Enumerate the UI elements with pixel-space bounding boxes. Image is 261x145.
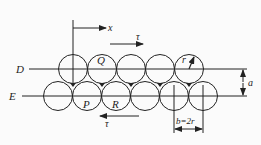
label-a: a bbox=[248, 77, 253, 88]
label-radius: r bbox=[182, 54, 186, 65]
label-x: x bbox=[107, 22, 113, 33]
label-tau-top: τ bbox=[136, 31, 140, 42]
label-d: D bbox=[15, 63, 24, 75]
label-b: b=2r bbox=[176, 116, 195, 126]
label-r: R bbox=[111, 98, 119, 110]
label-q: Q bbox=[97, 54, 105, 66]
label-tau-bottom: τ bbox=[105, 118, 109, 129]
label-e: E bbox=[8, 90, 16, 102]
label-p: P bbox=[82, 98, 90, 110]
atomic-slip-diagram: D E x τ τ Q P R r a b=2r bbox=[0, 0, 261, 145]
radius-arrow bbox=[189, 57, 194, 69]
